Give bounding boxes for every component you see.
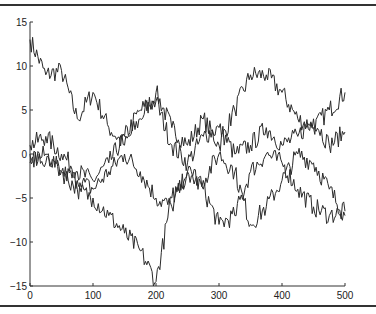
line-chart: −15−10−50510150100200300400500 — [0, 0, 376, 314]
x-tick-label: 300 — [211, 290, 228, 301]
series-lines — [30, 37, 345, 286]
y-tick-label: −10 — [10, 237, 27, 248]
x-tick-label: 100 — [85, 290, 102, 301]
x-tick-label: 0 — [27, 290, 33, 301]
y-tick-label: 5 — [21, 105, 27, 116]
y-tick-label: 15 — [16, 17, 28, 28]
series-line-2 — [30, 97, 345, 182]
x-tick-label: 400 — [274, 290, 291, 301]
series-line-1 — [30, 37, 345, 151]
y-tick-label: −15 — [10, 281, 27, 292]
series-line-4 — [30, 146, 345, 286]
y-tick-label: 0 — [21, 149, 27, 160]
y-tick-label: 10 — [16, 61, 28, 72]
y-tick-label: −5 — [16, 193, 28, 204]
x-tick-label: 200 — [148, 290, 165, 301]
x-tick-label: 500 — [337, 290, 354, 301]
